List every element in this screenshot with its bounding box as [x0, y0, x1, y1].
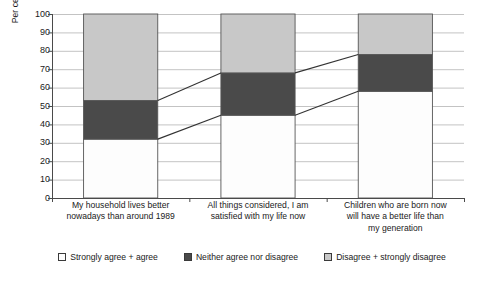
bar-segment [221, 73, 295, 115]
category-label-line: my generation [331, 223, 460, 234]
category-label-line: will have a better life than [331, 211, 460, 222]
connector-line [295, 91, 358, 115]
bar-segment [358, 14, 432, 54]
bar-segment [221, 14, 295, 73]
bar-segment [84, 14, 158, 100]
connector-line [295, 54, 358, 72]
x-axis-category-label: My household lives betternowadays than a… [52, 200, 189, 244]
stacked-bar-chart: Per cent of respondents 0102030405060708… [0, 0, 478, 284]
category-label-line: All things considered, I am [193, 200, 322, 211]
bar-segment [84, 139, 158, 198]
connector-line [158, 73, 221, 101]
bar-segment [84, 100, 158, 139]
chart-legend: Strongly agree + agreeNeither agree nor … [42, 250, 462, 264]
legend-label: Disagree + strongly disagree [336, 252, 446, 262]
bar-segment [221, 115, 295, 198]
legend-swatch-icon [324, 253, 332, 261]
legend-label: Strongly agree + agree [70, 252, 158, 262]
x-axis-category-label: All things considered, I amsatisfied wit… [189, 200, 326, 244]
category-label-line: Children who are born now [331, 200, 460, 211]
x-axis-category-labels: My household lives betternowadays than a… [52, 200, 464, 244]
legend-swatch-icon [184, 253, 192, 261]
x-axis-category-label: Children who are born nowwill have a bet… [327, 200, 464, 244]
bar-segment [358, 91, 432, 198]
category-label-line: nowadays than around 1989 [56, 211, 185, 222]
legend-swatch-icon [58, 253, 66, 261]
connector-line [158, 115, 221, 139]
legend-item[interactable]: Strongly agree + agree [58, 252, 158, 262]
category-label-line: satisfied with my life now [193, 211, 322, 222]
footer-caption [4, 276, 304, 284]
legend-item[interactable]: Disagree + strongly disagree [324, 252, 446, 262]
category-label-line: My household lives better [56, 200, 185, 211]
bar-segment [358, 54, 432, 91]
legend-label: Neither agree nor disagree [196, 252, 298, 262]
legend-item[interactable]: Neither agree nor disagree [184, 252, 298, 262]
bars-group [84, 14, 433, 198]
